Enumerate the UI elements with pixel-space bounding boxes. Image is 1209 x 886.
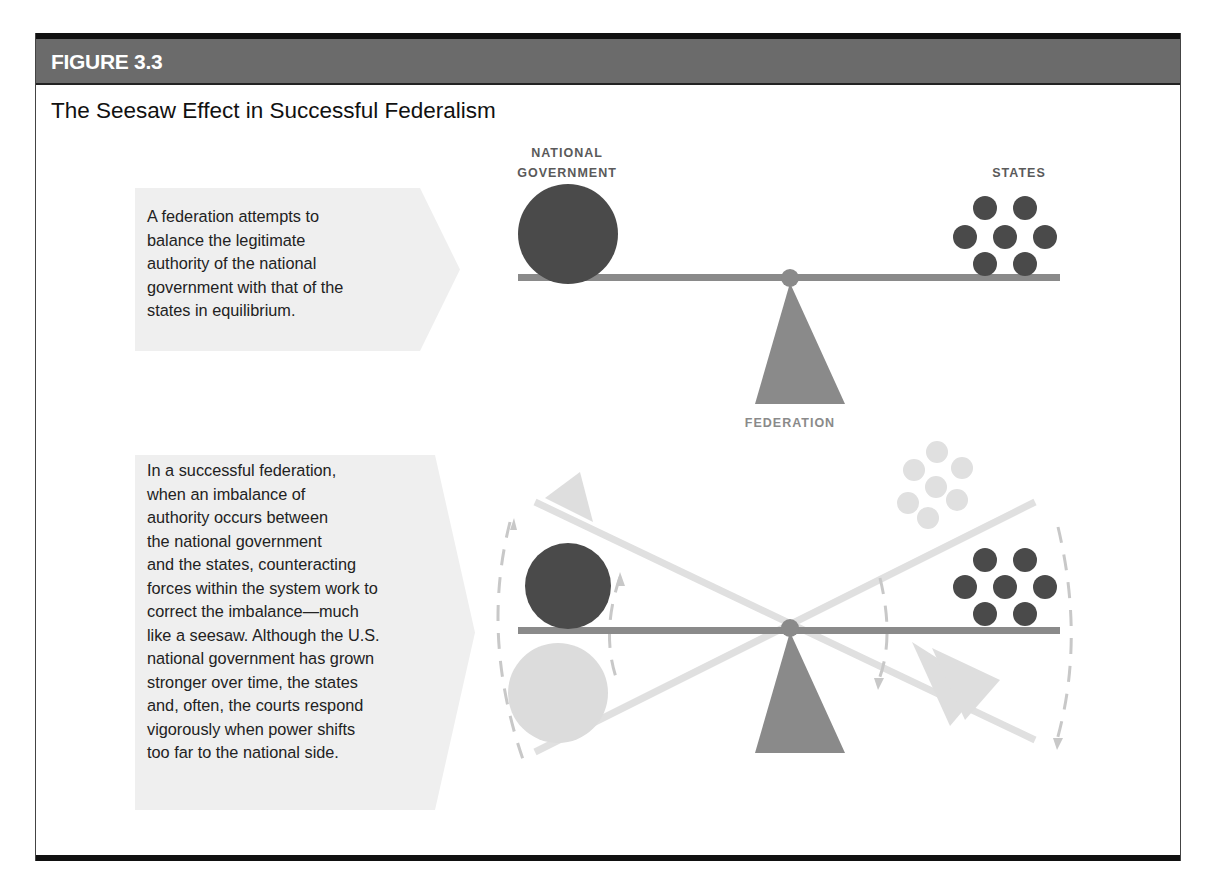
arrow-down-right-outer: [1053, 738, 1063, 750]
bottom-seesaw: [498, 441, 1071, 765]
arrow-up-left-outer: [510, 518, 517, 530]
arrow-up-left-inner: [616, 572, 625, 586]
fulcrum-triangle: [755, 632, 845, 753]
seesaw-diagram: NATIONAL GOVERNMENT STATES FEDERATION: [0, 0, 1209, 886]
label-federation: FEDERATION: [745, 416, 835, 430]
ghost-national-ball: [508, 643, 608, 743]
label-national: NATIONAL: [531, 146, 603, 160]
arrow-down-right-inner: [874, 678, 884, 690]
top-seesaw: NATIONAL GOVERNMENT STATES FEDERATION: [517, 146, 1060, 430]
states-balls: [953, 548, 1057, 626]
ghost-states-balls: [897, 441, 973, 529]
national-government-ball: [525, 543, 611, 629]
pivot: [781, 269, 799, 287]
pivot: [781, 619, 799, 637]
dashed-arc-left-outer: [498, 522, 525, 765]
national-government-ball: [518, 184, 618, 284]
label-government: GOVERNMENT: [517, 166, 617, 180]
label-states: STATES: [992, 166, 1045, 180]
states-balls: [953, 196, 1057, 276]
fulcrum-triangle: [755, 283, 845, 404]
